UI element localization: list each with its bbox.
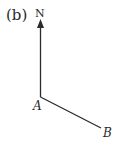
north-arrow-icon: [37, 19, 44, 28]
bearing-diagram: (b) N A B: [0, 0, 113, 141]
north-label: N: [35, 7, 45, 20]
point-a-label: A: [32, 99, 42, 113]
figure-label: (b): [6, 6, 27, 24]
line-ab: [41, 97, 102, 128]
point-b-label: B: [102, 126, 112, 140]
